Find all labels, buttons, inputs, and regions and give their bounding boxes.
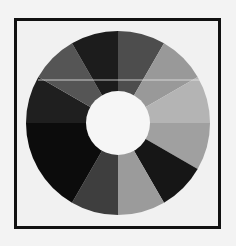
image-canvas [0,0,236,246]
donut-chart [0,0,236,246]
donut-hole [86,91,150,155]
